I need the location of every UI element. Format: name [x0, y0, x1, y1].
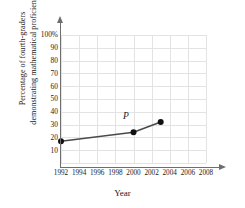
y-tick-label-40: 40	[32, 108, 58, 115]
data-series-line	[61, 35, 206, 163]
y-tick-label-30: 30	[32, 121, 58, 128]
y-axis-arrow-icon	[57, 16, 63, 23]
y-tick-label-10: 10	[32, 147, 58, 154]
y-axis-title-line1: Percentage of fourth-graders	[18, 12, 27, 106]
y-tick-label-100: 100%	[32, 31, 58, 38]
y-tick-label-80: 80	[32, 57, 58, 64]
y-tick-label-20: 20	[32, 134, 58, 141]
y-tick-label-50: 50	[32, 95, 58, 102]
y-axis-line	[60, 22, 61, 168]
y-tick-label-70: 70	[32, 70, 58, 77]
x-axis-arrow-icon	[219, 164, 226, 170]
gridline-h-0	[61, 163, 206, 164]
data-point-2003	[158, 119, 164, 125]
y-tick-label-60: 60	[32, 83, 58, 90]
chart-figure: Percentage of fourth-graders demonstrati…	[0, 0, 245, 208]
x-axis-title: Year	[0, 188, 245, 198]
plot-area: P	[61, 35, 206, 163]
point-label-p: P	[123, 111, 129, 121]
y-tick-label-90: 90	[32, 44, 58, 51]
gridline-v-2008	[206, 35, 207, 163]
data-point-2000	[131, 129, 137, 135]
x-tick-label-2008: 2008	[195, 170, 217, 177]
